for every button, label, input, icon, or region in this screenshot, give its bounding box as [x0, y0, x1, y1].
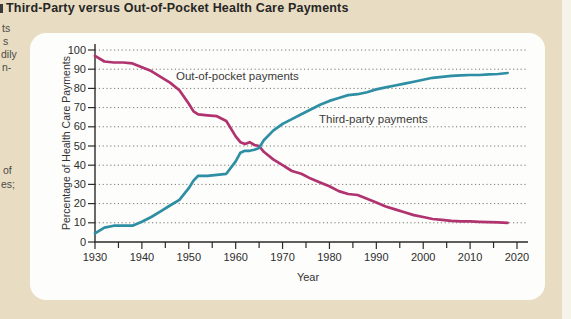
x-tick-label: 1990 [364, 251, 388, 263]
y-tick-label: 30 [74, 178, 86, 190]
y-axis-title: Percentage of Health Care Payments [60, 56, 72, 230]
y-tick-label: 20 [74, 197, 86, 209]
x-axis-title: Year [297, 271, 319, 283]
x-tick-label: 1980 [317, 251, 341, 263]
y-tick-label: 10 [74, 216, 86, 228]
out-of-pocket-series-label: Out-of-pocket payments [176, 70, 299, 82]
textbook-exhibit: Third-Party versus Out-of-Pocket Health … [0, 0, 571, 319]
y-tick-label: 100 [68, 44, 86, 56]
y-tick-label: 80 [74, 82, 86, 94]
y-tick-label: 60 [74, 120, 86, 132]
x-tick-label: 2020 [505, 251, 529, 263]
line-chart: 0102030405060708090100193019401950196019… [0, 0, 571, 319]
y-tick-label: 50 [74, 140, 86, 152]
x-tick-label: 1950 [177, 251, 201, 263]
x-tick-label: 1960 [223, 251, 247, 263]
x-tick-label: 2010 [458, 251, 482, 263]
x-tick-label: 1970 [270, 251, 294, 263]
y-tick-label: 40 [74, 159, 86, 171]
third-party-line [95, 73, 508, 233]
x-tick-label: 1930 [83, 251, 107, 263]
x-tick-label: 1940 [130, 251, 154, 263]
x-tick-label: 2000 [411, 251, 435, 263]
y-tick-label: 70 [74, 101, 86, 113]
y-tick-label: 0 [80, 236, 86, 248]
y-tick-label: 90 [74, 63, 86, 75]
out-of-pocket-line [95, 56, 508, 223]
third-party-series-label: Third-party payments [319, 113, 428, 125]
